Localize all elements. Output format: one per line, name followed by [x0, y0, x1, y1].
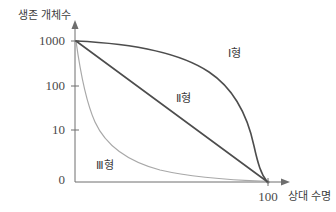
x-axis-title: 상대 수명 [288, 191, 332, 202]
survivorship-curve-figure: 생존 개체수 1000 100 10 0 100 상대 수명 Ⅰ형 Ⅱ형 Ⅲ형 [0, 0, 336, 212]
y-axis-arrow-icon [72, 20, 79, 29]
x-tick-label-100: 100 [252, 190, 284, 203]
y-axis-title: 생존 개체수 [18, 10, 72, 21]
y-tick-label-10: 10 [20, 123, 65, 136]
curve-label-type-3: Ⅲ형 [96, 160, 114, 171]
y-tick-label-100: 100 [20, 79, 65, 92]
x-axis-arrow-icon [281, 179, 290, 186]
curve-label-type-1: Ⅰ형 [228, 48, 241, 59]
y-tick-label-0: 0 [20, 173, 65, 186]
x-axis [75, 179, 290, 186]
curve-label-type-2: Ⅱ형 [176, 93, 191, 104]
y-axis [72, 20, 79, 182]
y-tick-label-1000: 1000 [20, 34, 65, 47]
